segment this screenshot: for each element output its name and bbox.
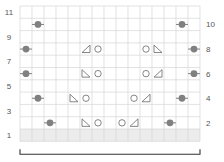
row-label-2: 2 [206,119,211,128]
row-label-8: 8 [206,45,211,54]
row-label-7: 7 [7,57,12,66]
bobble-icon [188,70,200,77]
yarn-over-icon [95,70,101,76]
yarn-over-icon [83,95,89,101]
bobble-icon [32,95,44,102]
yarn-over-icon [95,120,101,126]
k2tog-triangle-icon [82,45,90,53]
bobble-icon [176,21,188,28]
shaded-row [20,129,200,141]
k2tog-triangle-icon [130,119,138,127]
row-label-1: 1 [7,131,12,140]
row-label-10: 10 [206,20,215,29]
bobble-icon [20,46,32,53]
row-label-6: 6 [206,70,211,79]
row-label-9: 9 [7,33,12,42]
row-label-4: 4 [206,94,211,103]
yarn-over-icon [143,70,149,76]
knitting-chart: 1357911246810 [0,0,224,162]
bobble-icon [188,46,200,53]
yarn-over-icon [95,46,101,52]
chart-grid [20,6,200,141]
repeat-bracket-line [20,149,200,154]
shaded-row-1 [20,129,200,141]
ssk-triangle-icon [70,94,78,102]
stitch-symbols [20,21,200,126]
k2tog-triangle-icon [142,94,150,102]
row-label-11: 11 [5,8,14,17]
yarn-over-icon [119,120,125,126]
row-label-5: 5 [7,82,12,91]
repeat-bracket [20,149,200,154]
ssk-triangle-icon [154,45,162,53]
bobble-icon [32,21,44,28]
ssk-triangle-icon [82,119,90,127]
bobble-icon [44,119,56,126]
row-label-3: 3 [7,107,12,116]
yarn-over-icon [131,95,137,101]
ssk-triangle-icon [82,70,90,78]
bobble-icon [176,95,188,102]
bobble-icon [20,70,32,77]
row-labels: 1357911246810 [5,8,216,140]
k2tog-triangle-icon [154,70,162,78]
yarn-over-icon [143,46,149,52]
bobble-icon [164,119,176,126]
